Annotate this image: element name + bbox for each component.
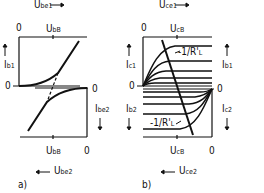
panel-a-bottom-tick-label: UbB [46, 146, 61, 157]
panel-b-top-axis-label: Uce1 [159, 0, 177, 11]
panel-a-caption: a) [18, 180, 27, 190]
panel-a-right-axis-label: Ibe2 [95, 104, 110, 115]
panel-b-loadline-top-label: -1/R'L [178, 47, 202, 58]
panel-b-bottom-zero: 0 [209, 146, 215, 156]
panel-a-top-axis-label: Ube1 [34, 0, 52, 11]
diagram-canvas [0, 0, 264, 193]
panel-a-top-tick-label: UbB [46, 24, 61, 35]
panel-b-left-zero: 0 [129, 81, 135, 91]
panel-a-bottom-axis-label: Ube2 [54, 166, 72, 177]
panel-b-bottom-axis-label: Uce2 [179, 166, 197, 177]
panel-a-top-zero: 0 [16, 23, 22, 33]
panel-b-bottom-tick-label: UcB [170, 146, 184, 157]
panel-b-top-tick-label: UcB [170, 24, 184, 35]
panel-b-top-zero: 0 [141, 23, 147, 33]
panel-b-left-bottom-label: Ib2 [126, 104, 137, 115]
panel-a-bottom-zero: 0 [84, 146, 90, 156]
panel-a-left-axis-label: Ib1 [4, 60, 15, 71]
panel-a-input-curve-1 [19, 41, 79, 86]
panel-a-input-curve-2 [28, 88, 87, 131]
panel-a-left-zero: 0 [5, 81, 11, 91]
panel-a-right-zero: 0 [92, 84, 98, 94]
panel-b-loadline-bottom-label: -1/R'L [150, 118, 174, 129]
panel-b-left-top-label: Ic1 [126, 60, 136, 71]
panel-b-right-bottom-label: Ic2 [222, 104, 232, 115]
panel-b-caption: b) [142, 180, 151, 190]
panel-b-leader-bottom [176, 121, 181, 124]
panel-b-right-top-label: Ib1 [222, 60, 233, 71]
panel-b-right-zero: 0 [217, 84, 223, 94]
